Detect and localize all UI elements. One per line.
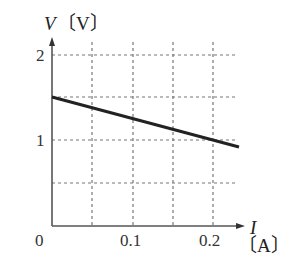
data-line	[52, 97, 239, 147]
x-axis-arrow-icon	[236, 223, 245, 229]
grid	[52, 42, 236, 226]
chart-canvas: 2 1 0 0.1 0.2 V 〔V〕 I 〔A〕	[0, 0, 289, 277]
x-axis-unit: 〔A〕	[238, 235, 289, 256]
origin-label: 0	[35, 231, 44, 250]
y-axis-symbol: V	[44, 13, 58, 34]
y-tick-2: 2	[36, 46, 45, 65]
y-axis-unit: 〔V〕	[57, 13, 109, 34]
y-axis-arrow-icon	[49, 37, 55, 46]
x-tick-0.1: 0.1	[120, 231, 141, 250]
y-tick-1: 1	[36, 131, 45, 150]
axes	[52, 44, 238, 226]
x-tick-0.2: 0.2	[199, 231, 220, 250]
